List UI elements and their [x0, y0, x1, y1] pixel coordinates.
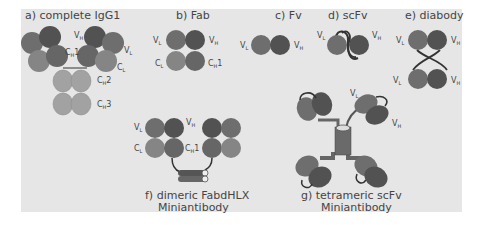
svg-text:VL: VL — [153, 36, 161, 46]
scfv-diagram: d) scFv VL VH — [317, 9, 381, 59]
svg-text:VL: VL — [350, 89, 358, 99]
vl-domain-top — [408, 30, 428, 50]
vh-domain-right — [202, 118, 222, 138]
svg-text:VH: VH — [451, 36, 460, 46]
svg-text:VL: VL — [396, 36, 404, 46]
svg-text:CH1: CH1 — [185, 144, 199, 154]
vl-domain-left — [145, 118, 165, 138]
svg-text:VH: VH — [74, 31, 83, 41]
ch3-domain-right — [71, 93, 91, 115]
vh-domain — [349, 35, 369, 55]
vl-domain-right — [221, 118, 241, 138]
ch2-domain-left — [53, 70, 73, 92]
svg-text:VH: VH — [294, 41, 303, 51]
vl-domain — [166, 30, 186, 50]
svg-text:VL: VL — [393, 76, 401, 86]
caption-dimeric-fab-line2: Miniantibody — [158, 201, 229, 214]
caption-scfv: d) scFv — [328, 9, 368, 22]
vh-domain-bottom — [427, 69, 447, 89]
svg-text:CL: CL — [117, 63, 126, 73]
cl-domain — [166, 51, 186, 71]
svg-text:VH: VH — [186, 118, 195, 128]
vl-domain-bottom — [408, 69, 428, 89]
vh-domain-left — [164, 118, 184, 138]
svg-text:VL: VL — [124, 46, 132, 56]
ch2-domain-right — [71, 70, 91, 92]
svg-text:CH1: CH1 — [65, 48, 79, 58]
cl-domain-right — [221, 138, 241, 158]
fv-diagram: c) Fv VL VH — [240, 9, 303, 55]
svg-text:VH: VH — [209, 36, 218, 46]
diabody-diagram: e) diabody VL VH VL VH — [393, 9, 464, 89]
ch1-domain-left — [164, 138, 184, 158]
cl-domain-right — [95, 50, 117, 72]
svg-text:VL: VL — [134, 123, 142, 133]
svg-text:VH: VH — [451, 76, 460, 86]
svg-text:CH1: CH1 — [208, 59, 222, 69]
fab-diagram: b) Fab VL VH CL CH1 — [153, 9, 222, 71]
dimeric-fab-miniantibody-diagram: VL VH CL CH1 f) dimeric FabdHLX Minianti… — [134, 118, 250, 214]
vh-domain — [270, 35, 290, 55]
svg-text:CL: CL — [134, 144, 143, 154]
igg1-diagram: a) complete IgG1 VH VL CH1 CL CH2 CH3 — [21, 9, 132, 115]
cl-domain-left — [145, 138, 165, 158]
tetrameric-scfv-miniantibody-diagram: VL VH g) tetrameric scFv Miniantibody — [292, 89, 403, 214]
vh-domain-top — [427, 30, 447, 50]
caption-fv: c) Fv — [275, 9, 302, 22]
vh-domain — [185, 30, 205, 50]
caption-diabody: e) diabody — [405, 9, 464, 22]
vh-domain-left — [39, 26, 61, 48]
svg-text:CH3: CH3 — [97, 100, 111, 110]
antibody-formats-diagram: a) complete IgG1 VH VL CH1 CL CH2 CH3 b)… — [0, 0, 485, 225]
caption-fab: b) Fab — [176, 9, 210, 22]
svg-text:VL: VL — [240, 41, 248, 51]
vl-domain — [327, 35, 347, 55]
svg-text:CL: CL — [155, 59, 164, 69]
svg-text:VH: VH — [372, 31, 381, 41]
svg-text:CH2: CH2 — [97, 76, 111, 86]
ch1-domain — [185, 51, 205, 71]
svg-text:VL: VL — [317, 31, 325, 41]
vl-domain — [251, 35, 271, 55]
ch1-domain-right — [202, 138, 222, 158]
caption-igg1: a) complete IgG1 — [25, 9, 120, 22]
ch3-domain-left — [53, 93, 73, 115]
svg-text:VH: VH — [392, 119, 401, 129]
caption-tetrameric-scfv-line2: Miniantibody — [321, 201, 392, 214]
